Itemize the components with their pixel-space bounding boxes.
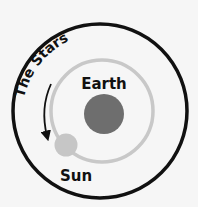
svg-text:The Stars: The Stars <box>11 29 70 99</box>
earth-label: Earth <box>81 75 127 93</box>
earth <box>84 94 124 134</box>
diagram-canvas: The Stars Earth Sun <box>0 0 198 207</box>
stars-label: The Stars <box>11 29 70 99</box>
sun-label: Sun <box>60 167 92 185</box>
geocentric-diagram: The Stars Earth Sun <box>0 0 198 207</box>
sun <box>55 134 78 157</box>
